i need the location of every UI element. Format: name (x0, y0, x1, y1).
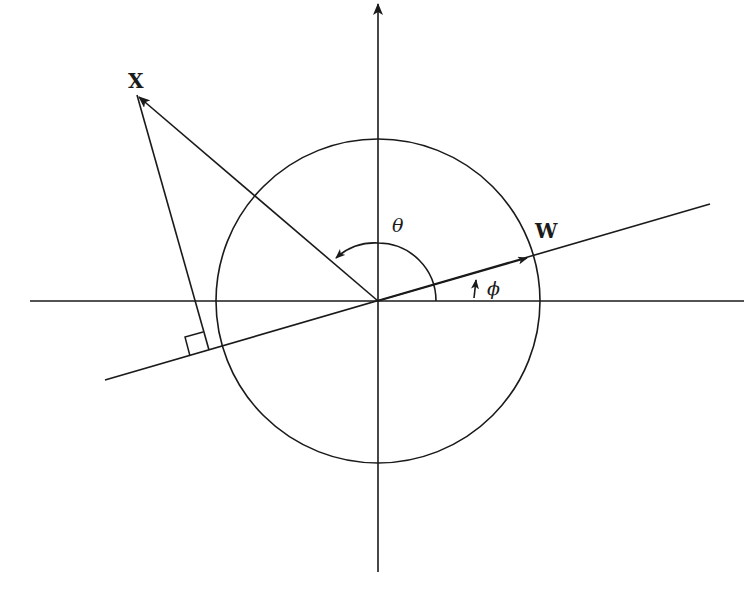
theta-arc (336, 243, 436, 301)
label-theta: θ (392, 214, 404, 236)
perpendicular-projection (137, 95, 209, 350)
label-x: X (128, 69, 144, 93)
vector-x (139, 97, 378, 301)
weight-vector-arrow (378, 258, 527, 301)
label-phi: ϕ (487, 277, 500, 299)
label-w: W (534, 219, 558, 243)
geometry-diagram: X W θ ϕ (0, 0, 744, 591)
phi-arrow (474, 280, 476, 298)
